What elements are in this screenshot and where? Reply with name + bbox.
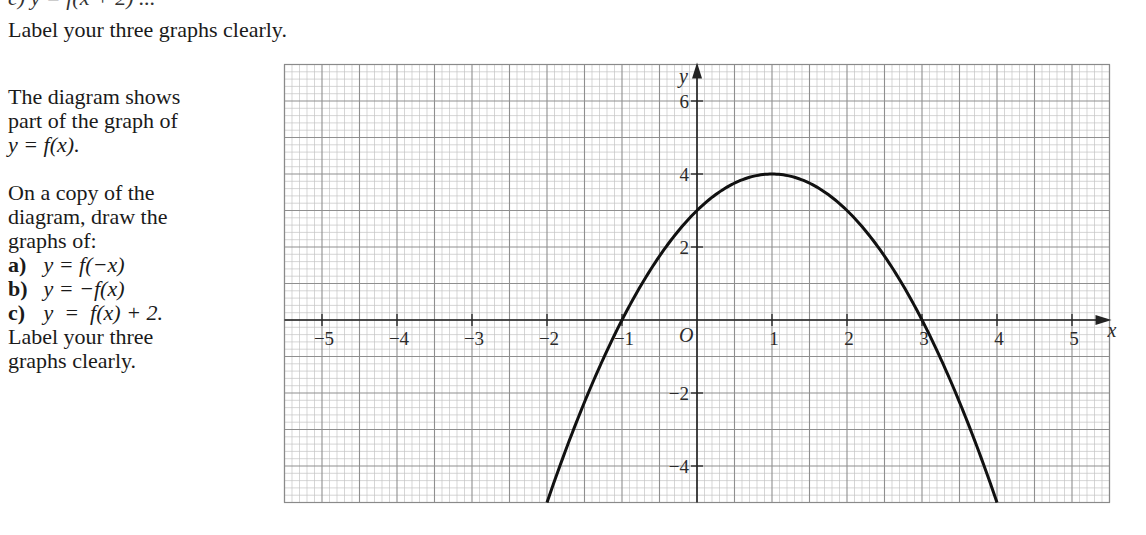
x-axis-label: x — [1107, 319, 1117, 341]
x-tick-label: 4 — [994, 328, 1004, 349]
y-tick-label: −2 — [669, 383, 689, 404]
x-tick-label: −2 — [539, 328, 559, 349]
y-tick-label: −4 — [669, 456, 690, 477]
x-tick-label: −3 — [464, 328, 484, 349]
x-tick-label: 2 — [844, 328, 854, 349]
y-tick-label: 6 — [680, 91, 690, 112]
x-tick-label: −5 — [314, 328, 334, 349]
origin-label: O — [679, 324, 693, 346]
x-tick-label: 5 — [1069, 328, 1079, 349]
y-axis-label: y — [677, 65, 688, 88]
y-tick-label: 2 — [680, 237, 690, 258]
y-tick-label: 4 — [680, 164, 690, 185]
function-graph: −5−4−3−2−112345642−2−4Oxy — [0, 0, 1146, 535]
x-tick-label: −4 — [389, 328, 410, 349]
x-tick-label: 1 — [769, 328, 779, 349]
